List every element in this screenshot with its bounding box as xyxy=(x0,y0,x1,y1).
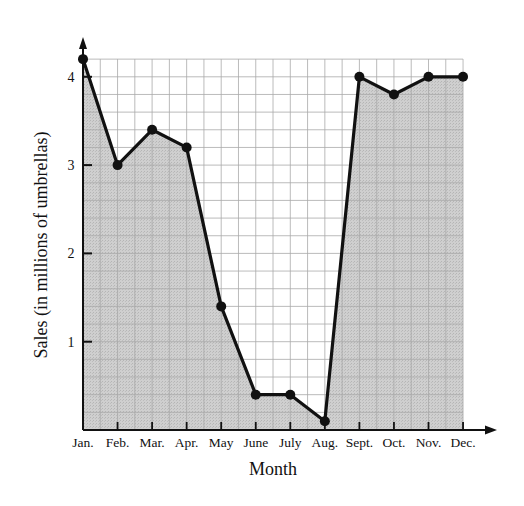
data-point-oct xyxy=(389,89,399,99)
x-tick-label: Apr. xyxy=(175,435,199,450)
data-point-nov xyxy=(424,72,434,82)
y-tick-label: 1 xyxy=(68,335,75,350)
y-axis-title: Sales (in millions of umbrellas) xyxy=(31,132,52,359)
data-point-june xyxy=(251,390,261,400)
data-point-july xyxy=(285,390,295,400)
data-point-dec xyxy=(458,72,468,82)
data-point-sept xyxy=(354,72,364,82)
x-tick-label: July xyxy=(279,435,302,450)
y-tick-label: 3 xyxy=(68,158,75,173)
data-point-apr xyxy=(182,142,192,152)
x-tick-label: Jan. xyxy=(72,435,93,450)
x-axis-title: Month xyxy=(249,459,297,479)
x-tick-label: May xyxy=(209,435,234,450)
y-axis-arrow-icon xyxy=(79,37,87,49)
x-tick-label: Aug. xyxy=(312,435,339,450)
y-tick-label: 4 xyxy=(68,70,75,85)
x-tick-label: Feb. xyxy=(106,435,130,450)
x-tick-label: Nov. xyxy=(416,435,442,450)
data-point-may xyxy=(216,301,226,311)
data-point-jan xyxy=(78,54,88,64)
x-tick-label: Sept. xyxy=(346,435,373,450)
x-tick-label: Dec. xyxy=(450,435,475,450)
data-point-feb xyxy=(113,160,123,170)
x-tick-label: Oct. xyxy=(383,435,406,450)
umbrella-sales-chart: 1234 Jan.Feb.Mar.Apr.MayJuneJulyAug.Sept… xyxy=(0,0,524,506)
y-tick-label: 2 xyxy=(68,246,75,261)
x-tick-label: Mar. xyxy=(140,435,165,450)
x-tick-label: June xyxy=(243,435,268,450)
x-axis-arrow-icon xyxy=(485,426,497,435)
data-point-mar xyxy=(147,125,157,135)
